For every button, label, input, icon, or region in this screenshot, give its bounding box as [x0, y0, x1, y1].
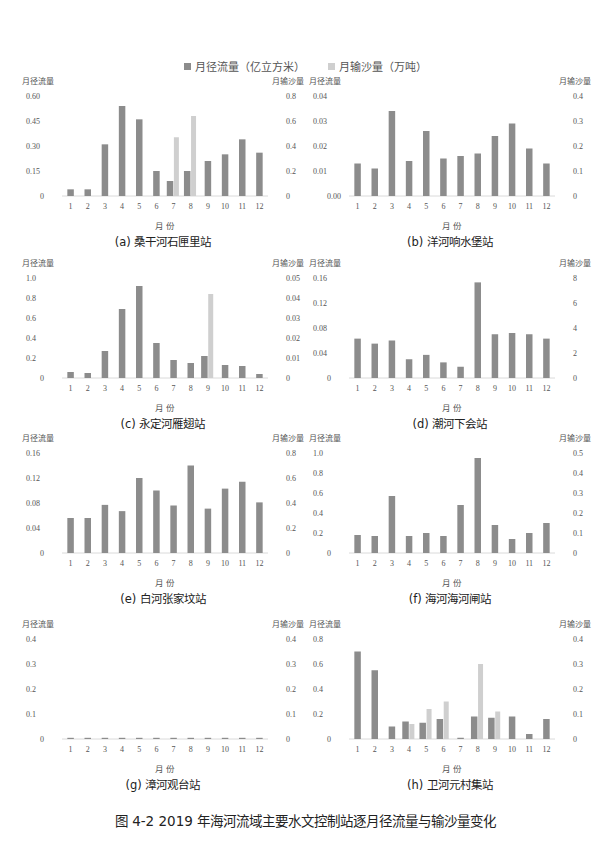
runoff-bar: [526, 149, 533, 197]
y-tick: 0: [327, 735, 331, 744]
runoff-bar: [256, 502, 263, 553]
runoff-bar: [437, 719, 444, 739]
y2-tick: 0.8: [286, 449, 296, 458]
runoff-bar: [354, 164, 361, 197]
runoff-bar: [372, 670, 379, 739]
x-tick: 6: [441, 559, 445, 568]
y2-tick: 0.1: [286, 710, 296, 719]
x-tick: 11: [525, 384, 533, 393]
runoff-bar: [256, 374, 263, 378]
sediment-bar: [191, 116, 196, 196]
x-tick: 6: [441, 202, 445, 211]
y2-tick: 0.5: [573, 449, 583, 458]
runoff-bar: [170, 738, 177, 739]
chart-panel-f: 月径流量月输沙量00.20.40.60.81.000.10.20.30.40.5…: [305, 431, 595, 613]
chart-panel-d: 月径流量月输沙量00.040.080.120.16024681234567891…: [305, 256, 595, 438]
x-axis-label: 月 份: [155, 764, 175, 774]
runoff-bar: [526, 734, 533, 739]
x-tick: 3: [390, 559, 394, 568]
x-tick: 5: [424, 202, 428, 211]
runoff-bar: [136, 286, 143, 378]
runoff-bar: [509, 539, 516, 553]
runoff-bar: [492, 136, 499, 196]
y-tick: 0.1: [26, 710, 36, 719]
runoff-bar: [471, 717, 478, 740]
x-tick: 10: [221, 202, 229, 211]
y-tick: 0: [40, 374, 44, 383]
y-axis-label: 月径流量: [309, 619, 341, 629]
runoff-bar: [543, 339, 550, 378]
runoff-bar: [526, 334, 533, 378]
y-tick: 0.45: [26, 117, 40, 126]
runoff-bar: [372, 536, 379, 553]
runoff-bar: [372, 169, 379, 197]
x-tick: 10: [508, 559, 516, 568]
runoff-bar: [119, 738, 126, 739]
y2-tick: 0.05: [286, 274, 300, 283]
y2-tick: 0.3: [573, 489, 583, 498]
figure-caption: 图 4-2 2019 年海河流域主要水文控制站逐月径流量与输沙量变化: [0, 810, 611, 830]
runoff-bar: [102, 505, 109, 553]
y2-tick: 0.2: [573, 509, 583, 518]
y-tick: 0.4: [313, 509, 323, 518]
y-tick: 0.6: [313, 660, 323, 669]
chart-panel-e: 月径流量月输沙量00.040.080.120.1600.20.40.60.812…: [18, 431, 308, 613]
y-tick: 0.4: [313, 685, 323, 694]
runoff-bar: [170, 506, 177, 554]
y2-tick: 0.4: [286, 635, 296, 644]
x-tick: 1: [69, 384, 73, 393]
x-tick: 12: [255, 202, 263, 211]
runoff-bar: [543, 164, 550, 197]
x-axis-label: 月 份: [442, 578, 462, 588]
runoff-bar: [354, 535, 361, 553]
x-tick: 1: [69, 559, 73, 568]
sediment-swatch-icon: [328, 63, 335, 70]
x-tick: 1: [69, 745, 73, 754]
y-tick: 0.2: [26, 685, 36, 694]
x-tick: 12: [542, 559, 550, 568]
chart-panel-b: 月径流量月输沙量0.000.010.020.030.0400.10.20.30.…: [305, 74, 595, 256]
x-tick: 8: [476, 384, 480, 393]
runoff-bar: [119, 106, 126, 196]
y2-tick: 0.8: [286, 92, 296, 101]
y-tick: 0.30: [26, 142, 40, 151]
x-tick: 9: [206, 384, 210, 393]
y2-tick: 0: [573, 549, 577, 558]
y2-tick: 0.1: [573, 710, 583, 719]
runoff-bar: [85, 189, 92, 196]
runoff-bar: [205, 738, 212, 739]
y-axis-label: 月径流量: [309, 76, 341, 86]
panel-title-a: (a) 桑干河石匣里站: [18, 233, 308, 249]
runoff-bar: [354, 339, 361, 378]
x-tick: 2: [373, 202, 377, 211]
runoff-bar: [102, 738, 109, 739]
x-tick: 5: [137, 202, 141, 211]
runoff-bar: [188, 466, 195, 554]
x-tick: 11: [238, 384, 246, 393]
runoff-bar: [102, 144, 109, 196]
x-tick: 2: [86, 384, 90, 393]
runoff-bar: [509, 124, 516, 197]
y-tick: 0: [40, 549, 44, 558]
x-tick: 9: [206, 559, 210, 568]
runoff-bar: [440, 159, 447, 197]
y-tick: 0.12: [313, 299, 327, 308]
y-tick: 0.08: [313, 324, 327, 333]
y-tick: 0.2: [26, 354, 36, 363]
x-tick: 12: [255, 559, 263, 568]
y2-tick: 2: [573, 349, 577, 358]
x-tick: 7: [172, 745, 176, 754]
y-tick: 0.15: [26, 167, 40, 176]
runoff-bar: [509, 333, 516, 378]
x-tick: 8: [476, 745, 480, 754]
x-tick: 1: [356, 384, 360, 393]
chart-panel-h: 月径流量月输沙量00.20.40.60.800.10.20.30.4123456…: [305, 617, 595, 799]
y2-tick: 0.2: [573, 142, 583, 151]
x-tick: 8: [189, 202, 193, 211]
y-tick: 0.01: [313, 167, 327, 176]
x-tick: 4: [120, 384, 124, 393]
y-tick: 0.04: [313, 349, 327, 358]
x-tick: 12: [255, 384, 263, 393]
x-tick: 10: [221, 384, 229, 393]
panel-title-f: (f) 海河海河闸站: [305, 590, 595, 606]
